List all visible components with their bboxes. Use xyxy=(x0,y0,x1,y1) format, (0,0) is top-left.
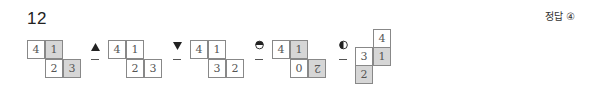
cell: 2 xyxy=(45,59,63,78)
triangle-down-icon xyxy=(173,41,182,50)
cell: 2 xyxy=(355,65,373,84)
cell: 1 xyxy=(45,40,63,59)
arrow-right-icon xyxy=(91,59,99,60)
triangle-up-icon xyxy=(91,42,100,51)
answer-label: 정답 ④ xyxy=(545,8,575,23)
cell: 2 xyxy=(126,59,144,78)
half-circle-left-filled-icon xyxy=(339,40,348,49)
cell: 1 xyxy=(208,40,226,59)
cell: 0 xyxy=(290,59,308,78)
half-circle-top-filled-icon xyxy=(255,40,264,49)
cell: 1 xyxy=(290,40,308,59)
cell: 2 xyxy=(308,59,326,78)
cell: 3 xyxy=(144,59,162,78)
flipped-digit: 2 xyxy=(314,62,321,75)
cell: 3 xyxy=(63,59,81,78)
question-number: 12 xyxy=(27,9,47,29)
cell: 3 xyxy=(208,59,226,78)
cell: 4 xyxy=(108,40,126,59)
arrow-right-icon xyxy=(255,59,263,60)
cell: 4 xyxy=(272,40,290,59)
cell: 1 xyxy=(373,47,391,66)
cell: 4 xyxy=(373,29,391,48)
arrow-right-icon xyxy=(173,59,181,60)
cell: 3 xyxy=(355,47,373,66)
cell: 4 xyxy=(27,40,45,59)
cell: 2 xyxy=(226,59,244,78)
arrow-right-icon xyxy=(339,59,347,60)
cell: 1 xyxy=(126,40,144,59)
cell: 4 xyxy=(190,40,208,59)
